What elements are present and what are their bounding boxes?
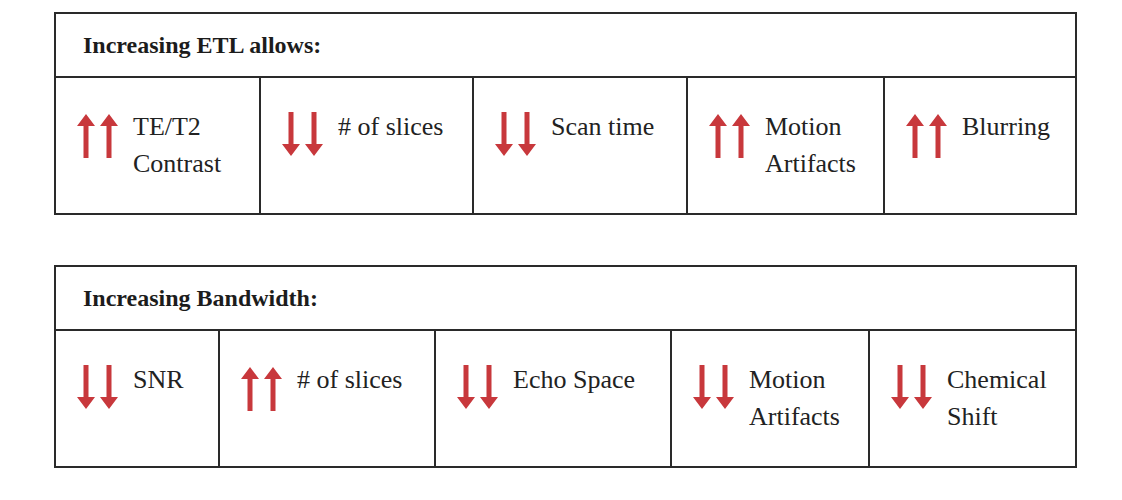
- double-up-arrow-icon: [240, 365, 283, 411]
- bw-cell-snr: SNR: [56, 331, 220, 466]
- double-down-arrow-icon: [281, 112, 324, 158]
- double-down-arrow-icon: [456, 365, 499, 411]
- cell-label: Blurring: [962, 108, 1050, 145]
- bandwidth-table: Increasing Bandwidth: SNR # of slices Ec…: [54, 265, 1077, 468]
- cell-label: Echo Space: [513, 361, 635, 398]
- double-up-arrow-icon: [76, 112, 119, 158]
- bandwidth-table-title: Increasing Bandwidth:: [56, 267, 1075, 331]
- etl-table-row: TE/T2 Contrast # of slices Scan time Mot…: [56, 78, 1075, 213]
- bw-cell-echo-space: Echo Space: [436, 331, 672, 466]
- cell-label: Chemical Shift: [947, 361, 1047, 435]
- bw-cell-chemical-shift: Chemical Shift: [870, 331, 1075, 466]
- bw-cell-motion-artifacts: Motion Artifacts: [672, 331, 870, 466]
- cell-label: TE/T2 Contrast: [133, 108, 221, 182]
- double-down-arrow-icon: [494, 112, 537, 158]
- double-up-arrow-icon: [905, 112, 948, 158]
- double-down-arrow-icon: [76, 365, 119, 411]
- etl-cell-scan-time: Scan time: [474, 78, 688, 213]
- cell-label: SNR: [133, 361, 184, 398]
- etl-table-title: Increasing ETL allows:: [56, 14, 1075, 78]
- double-down-arrow-icon: [692, 365, 735, 411]
- bw-cell-slices: # of slices: [220, 331, 436, 466]
- cell-label: # of slices: [297, 361, 402, 398]
- cell-label: Motion Artifacts: [749, 361, 840, 435]
- etl-cell-motion-artifacts: Motion Artifacts: [688, 78, 885, 213]
- double-down-arrow-icon: [890, 365, 933, 411]
- etl-cell-te-t2-contrast: TE/T2 Contrast: [56, 78, 261, 213]
- etl-cell-blurring: Blurring: [885, 78, 1075, 213]
- etl-table: Increasing ETL allows: TE/T2 Contrast # …: [54, 12, 1077, 215]
- double-up-arrow-icon: [708, 112, 751, 158]
- cell-label: Scan time: [551, 108, 654, 145]
- cell-label: Motion Artifacts: [765, 108, 856, 182]
- bandwidth-table-row: SNR # of slices Echo Space Motion Artifa…: [56, 331, 1075, 466]
- cell-label: # of slices: [338, 108, 443, 145]
- etl-cell-slices: # of slices: [261, 78, 474, 213]
